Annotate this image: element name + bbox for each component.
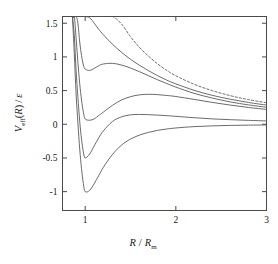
y-tick-label: 0 [53,120,58,130]
y-tick-label: -0.5 [42,153,57,163]
x-axis-ticks [85,17,266,211]
potential-curves [72,3,267,193]
x-tick-label: 3 [264,215,269,225]
x-tick-label: 2 [173,215,178,225]
y-axis-label: Veff(R)/ε [13,93,27,132]
y-axis-ticks [63,23,267,191]
x-axis-label-numerator: R [128,237,136,248]
y-tick-label: 0.5 [46,86,58,96]
y-axis-label-epsilon: ε [13,93,24,98]
svg-text:R/Rm: R/Rm [128,237,157,251]
potential-curve-5 [72,3,267,103]
potential-curve-2 [72,3,267,121]
y-tick-label: -1 [50,187,58,197]
y-axis-label-slash: / [13,100,24,103]
chart-figure: 123 -1-0.500.511.5 R/Rm Veff(R)/ε [0,0,278,264]
y-tick-label: 1.5 [46,19,58,29]
plot-frame [63,17,267,211]
potential-curve-4 [72,3,267,106]
x-tick-label: 1 [83,215,88,225]
y-tick-label: 1 [53,52,58,62]
x-axis-tick-labels: 123 [83,215,269,225]
effective-potential-plot: 123 -1-0.500.511.5 R/Rm Veff(R)/ε [0,0,278,264]
x-axis-label: R/Rm [128,237,157,251]
y-axis-tick-labels: -1-0.500.511.5 [42,19,57,197]
x-axis-label-subscript: m [151,243,157,251]
potential-curve-3 [72,3,267,108]
y-axis-label-paren-close: ) [13,104,25,108]
potential-curve-1 [72,3,267,158]
svg-text:Veff(R)/ε: Veff(R)/ε [13,93,27,132]
x-axis-label-slash: / [139,237,142,248]
